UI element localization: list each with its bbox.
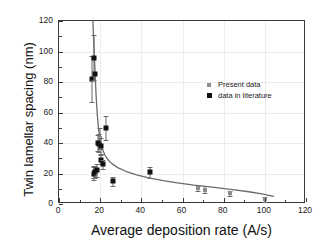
y-axis-tick [59, 52, 63, 53]
data-point-literature [94, 168, 99, 173]
x-axis-title: Average deposition rate (A/s) [58, 222, 305, 238]
error-bar-cap [94, 177, 99, 178]
error-bar-cap [91, 180, 96, 181]
data-point-literature [99, 144, 104, 149]
error-bar-cap [103, 116, 108, 117]
y-axis-tick [59, 143, 63, 144]
y-axis-minor-tick [59, 128, 62, 129]
legend-label-present-data: Present data [218, 79, 261, 90]
legend-item-data-in-literature: data in literature [207, 90, 272, 101]
x-axis-minor-tick [203, 200, 204, 203]
error-bar-cap [227, 196, 232, 197]
error-bar-cap [96, 151, 101, 152]
data-point-literature [101, 162, 106, 167]
x-tick-label: 0 [56, 205, 61, 215]
data-point-present-data [203, 188, 207, 192]
error-bar-cap [147, 178, 152, 179]
x-tick-label: 80 [218, 205, 227, 215]
x-axis-tick [265, 198, 266, 202]
error-bar-cap [110, 186, 115, 187]
legend-label-data-in-literature: data in literature [218, 90, 272, 101]
legend: Present data data in literature [207, 79, 272, 101]
x-axis-tick [59, 198, 60, 202]
y-axis-minor-tick [59, 189, 62, 190]
error-bar-cap [103, 140, 108, 141]
data-point-literature [110, 179, 115, 184]
y-axis-tick [59, 82, 63, 83]
data-point-present-data [196, 186, 200, 190]
y-axis-tick [59, 21, 63, 22]
error-bar-cap [195, 191, 200, 192]
error-bar-cap [89, 102, 94, 103]
error-bar-cap [147, 167, 152, 168]
x-axis-tick [306, 198, 307, 202]
y-axis-minor-tick [59, 67, 62, 68]
plot-area: Present data data in literature [58, 20, 305, 203]
legend-marker-data-in-literature [207, 93, 212, 98]
y-axis-title: Twin lamellar spacing (nm) [21, 20, 36, 220]
y-axis-minor-tick [59, 97, 62, 98]
x-tick-label: 40 [136, 205, 145, 215]
error-bar-cap [97, 128, 102, 129]
x-axis-minor-tick [285, 200, 286, 203]
x-axis-tick [224, 198, 225, 202]
error-bar-cap [92, 35, 97, 36]
error-bar-cap [101, 169, 106, 170]
x-tick-label: 100 [257, 205, 271, 215]
x-axis-minor-tick [80, 200, 81, 203]
error-bar-cap [98, 155, 103, 156]
x-tick-label: 120 [298, 205, 312, 215]
x-axis-minor-tick [121, 200, 122, 203]
legend-item-present-data: Present data [207, 79, 272, 90]
y-axis-tick [59, 174, 63, 175]
error-bar-cap [203, 193, 208, 194]
y-axis-minor-tick [59, 36, 62, 37]
error-bar-cap [92, 80, 97, 81]
figure: Present data data in literature 02040608… [0, 0, 327, 249]
error-bar-cap [110, 177, 115, 178]
error-bar-cap [96, 135, 101, 136]
data-point-literature [147, 170, 152, 175]
y-axis-minor-tick [59, 158, 62, 159]
x-axis-tick [141, 198, 142, 202]
legend-marker-present-data [207, 83, 211, 87]
error-bar-cap [101, 160, 106, 161]
data-point-literature [103, 125, 108, 130]
x-tick-label: 60 [177, 205, 186, 215]
data-point-literature [92, 55, 97, 60]
x-tick-label: 20 [94, 205, 103, 215]
x-axis-minor-tick [244, 200, 245, 203]
x-axis-tick [183, 198, 184, 202]
x-axis-minor-tick [162, 200, 163, 203]
x-axis-tick [100, 198, 101, 202]
y-axis-tick [59, 113, 63, 114]
error-bar-cap [92, 178, 97, 179]
data-point-present-data [228, 191, 232, 195]
data-point-literature [93, 72, 98, 77]
